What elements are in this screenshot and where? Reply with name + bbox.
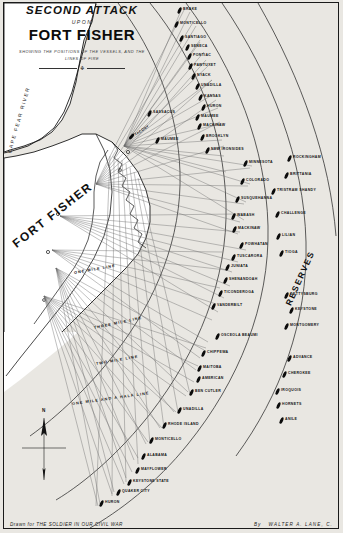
vessel-name: ROCKINGHAM bbox=[293, 155, 321, 159]
by-label: By bbox=[254, 522, 262, 527]
title-cartouche: SECOND ATTACK UPON FORT FISHER SHOWING T… bbox=[12, 4, 152, 71]
vessel-name: PONTIAC bbox=[193, 53, 211, 57]
vessel-name: PAWTUXET bbox=[194, 63, 216, 67]
title-second-attack: SECOND ATTACK bbox=[12, 4, 152, 17]
vessel-name: NYACK bbox=[197, 73, 211, 77]
vessel-name: KEYSTONE bbox=[295, 307, 317, 311]
vessel-name: LILIAN bbox=[282, 233, 295, 237]
vessel-name: VANDERBILT bbox=[217, 303, 243, 307]
vessel-name: UNADILLA bbox=[201, 83, 222, 87]
vessel-name: CHIPPEWA bbox=[207, 350, 228, 354]
vessel-name: MONTICELLO bbox=[155, 437, 182, 441]
vessel-name: MONTGOMERY bbox=[290, 323, 319, 327]
vessel-name: HURON bbox=[207, 104, 222, 108]
compass-north-label: N bbox=[42, 408, 45, 413]
vessel-name: KEYSTONE STATE bbox=[133, 479, 169, 483]
vessel-name: SANTIAGO bbox=[185, 35, 206, 39]
vessel-name: SASSACUS bbox=[153, 110, 175, 114]
vessel-name: BEN CUTLER bbox=[195, 389, 221, 393]
vessel-name: CHEROKEE bbox=[288, 371, 311, 375]
vessel-name: KANSAS bbox=[204, 94, 221, 98]
title-divider: ❖ bbox=[12, 65, 152, 71]
title-fort-fisher: FORT FISHER bbox=[12, 26, 152, 43]
title-subtitle-2: LINES OF FIRE bbox=[12, 55, 152, 62]
vessel-name: TIOGA bbox=[285, 250, 298, 254]
vessel-name: MACKINAW bbox=[203, 123, 225, 127]
vessel-name: TUSCARORA bbox=[237, 254, 263, 258]
vessel-name: OSCEOLA BEAUMI bbox=[221, 333, 258, 337]
vessel-name: BRAKE bbox=[183, 7, 197, 11]
vessel-name: SHENANDOAH bbox=[229, 277, 258, 281]
vessel-name: SUSQUEHANNA bbox=[241, 196, 272, 200]
vessel-name: WABASH bbox=[237, 213, 255, 217]
vessel-name: UNADILLA bbox=[183, 407, 204, 411]
map-canvas: SECOND ATTACK UPON FORT FISHER SHOWING T… bbox=[0, 0, 343, 533]
vessel-name: BROOKLYN bbox=[206, 134, 229, 138]
vessel-name: AMERICAN bbox=[202, 376, 224, 380]
vessel-name: NEW IRONSIDES bbox=[211, 147, 244, 151]
vessel-name: GETTYSBURG bbox=[290, 292, 318, 296]
vessel-name: MAUMEE bbox=[161, 137, 179, 141]
vessel-name: BRITTANIA bbox=[290, 172, 312, 176]
vessel-name: MINNESOTA bbox=[249, 160, 273, 164]
drawn-for-text: Drawn for THE SOLDIER IN OUR CIVIL WAR bbox=[10, 522, 123, 527]
vessel-name: QUAKER CITY bbox=[122, 489, 150, 493]
vessel-name: MAITOBA bbox=[203, 365, 222, 369]
vessel-name: TRISTRAM SHANDY bbox=[277, 188, 316, 192]
vessel-name: MAUMEE bbox=[201, 114, 219, 118]
vessel-name: COLORADO bbox=[246, 178, 269, 182]
vessel-name: SENECA bbox=[191, 44, 208, 48]
vessel-name: ANILE bbox=[285, 417, 297, 421]
title-subtitle-1: SHOWING THE POSITIONS OF THE VESSELS, AN… bbox=[12, 48, 152, 55]
vessel-name: POWHATAN bbox=[245, 242, 268, 246]
vessel-name: CHALLENGE bbox=[281, 211, 306, 215]
compass-rose: N bbox=[18, 408, 74, 480]
vessel-name: MONTICELLO bbox=[180, 21, 207, 25]
footer-credit: Drawn for THE SOLDIER IN OUR CIVIL WARBy… bbox=[10, 522, 333, 527]
vessel-name: MAYFLOWER bbox=[141, 467, 167, 471]
vessel-name: HURON bbox=[105, 500, 120, 504]
vessel-name: ADVANCE bbox=[293, 355, 313, 359]
vessel-name: RHODE ISLAND bbox=[168, 422, 199, 426]
ornament-glyph: ❖ bbox=[80, 65, 84, 71]
title-upon: UPON bbox=[12, 19, 152, 25]
artist-credit: By WALTER A. LANE, C. bbox=[254, 522, 333, 527]
vessel-name: MACKINAW bbox=[238, 226, 260, 230]
vessel-name: JUNIATA bbox=[231, 264, 248, 268]
vessel-name: TICONDEROGA bbox=[224, 290, 254, 294]
vessel-name: HORNETS bbox=[282, 402, 302, 406]
vessel-name: IROQUOIS bbox=[281, 388, 301, 392]
artist-name: WALTER A. LANE, C. bbox=[269, 522, 333, 527]
vessel-name: ALABAMA bbox=[147, 453, 167, 457]
